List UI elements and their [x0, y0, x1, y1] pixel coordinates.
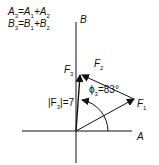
vector-f3: [76, 75, 80, 131]
axis-label-b: B: [80, 14, 87, 25]
label-f1: F1: [137, 98, 146, 111]
angle-arc-phi3: [82, 100, 108, 131]
label-f2: F2: [94, 58, 103, 71]
magnitude-label-f3: |F3|=7: [48, 97, 74, 110]
label-f3: F3: [64, 64, 73, 77]
vector-f1: [76, 99, 134, 131]
angle-label-phi3: ϕ3=83°: [89, 84, 119, 97]
axis-label-a: A: [137, 131, 144, 142]
